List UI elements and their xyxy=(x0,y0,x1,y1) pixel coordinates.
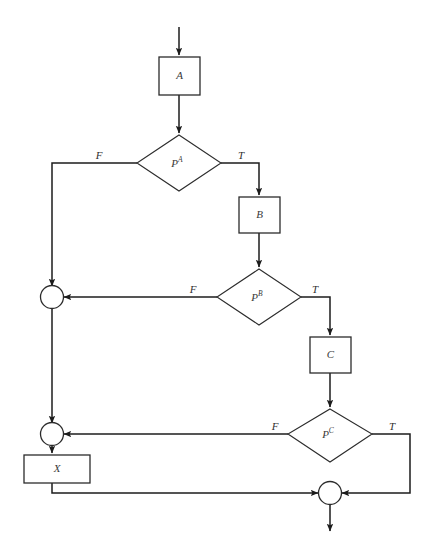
merge-1-shape xyxy=(41,286,64,309)
decision-pc-shape xyxy=(288,409,372,462)
node-merge-3[interactable] xyxy=(319,482,342,505)
edge-label-pc-false: F xyxy=(271,420,279,432)
edge-label-pa-false: F xyxy=(95,149,103,161)
node-merge-2[interactable] xyxy=(41,423,64,446)
node-process-a[interactable]: A xyxy=(159,57,200,95)
process-b-label: B xyxy=(256,208,263,220)
process-x-label: X xyxy=(53,462,62,474)
process-c-label: C xyxy=(327,348,335,360)
node-merge-1[interactable] xyxy=(41,286,64,309)
node-process-c[interactable]: C xyxy=(310,337,351,373)
edge-pa-true-to-b xyxy=(221,163,259,195)
edge-pb-true-to-c xyxy=(301,297,330,335)
node-process-x[interactable]: X xyxy=(24,455,90,483)
edge-pa-false-to-merge1 xyxy=(52,163,137,286)
process-a-label: A xyxy=(175,69,183,81)
edge-label-pa-true: T xyxy=(238,149,245,161)
merge-2-shape xyxy=(41,423,64,446)
flowchart-svg: A PA F T B PB F T C PC xyxy=(0,0,443,557)
edge-x-to-merge3 xyxy=(52,483,318,493)
edge-label-pb-false: F xyxy=(189,283,197,295)
diagram-canvas: A PA F T B PB F T C PC xyxy=(0,0,443,557)
merge-3-shape xyxy=(319,482,342,505)
node-decision-pc[interactable]: PC xyxy=(288,409,372,462)
node-decision-pa[interactable]: PA xyxy=(137,135,221,191)
node-process-b[interactable]: B xyxy=(239,197,280,233)
node-decision-pb[interactable]: PB xyxy=(217,269,301,325)
edge-label-pc-true: T xyxy=(389,420,396,432)
edge-label-pb-true: T xyxy=(312,283,319,295)
